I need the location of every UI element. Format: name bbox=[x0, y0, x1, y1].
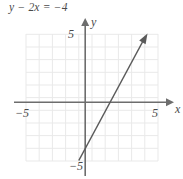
y-axis-name-label: y bbox=[90, 15, 97, 29]
plotted-line bbox=[79, 34, 148, 161]
coordinate-graph: −5 5 5 −5 x y bbox=[0, 0, 183, 179]
plotted-line-arrowhead bbox=[139, 34, 147, 45]
x-axis-tick-label-right: 5 bbox=[152, 106, 158, 120]
x-axis-tick-label-left: −5 bbox=[15, 106, 29, 120]
graph-figure: y − 2x = −4 bbox=[0, 0, 183, 179]
x-axis-name-label: x bbox=[174, 102, 181, 116]
x-axis-arrowhead bbox=[166, 98, 174, 106]
y-axis-tick-label-top: 5 bbox=[68, 27, 74, 41]
x-axis bbox=[14, 98, 174, 106]
y-axis-arrowhead bbox=[81, 18, 89, 26]
y-axis-tick-label-bottom: −5 bbox=[69, 159, 83, 173]
